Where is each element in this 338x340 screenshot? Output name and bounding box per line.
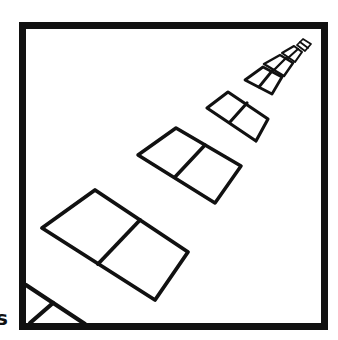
window-divider xyxy=(175,145,205,177)
window-divider xyxy=(259,71,272,87)
window-drawings xyxy=(26,39,311,324)
window-divider xyxy=(98,220,140,264)
window-divider xyxy=(288,49,298,58)
window-divider xyxy=(30,303,53,323)
window-frame xyxy=(138,128,241,203)
window-divider xyxy=(274,58,286,70)
perspective-windows-illustration xyxy=(0,0,338,340)
window-divider xyxy=(230,103,247,122)
window-frame xyxy=(207,92,268,141)
